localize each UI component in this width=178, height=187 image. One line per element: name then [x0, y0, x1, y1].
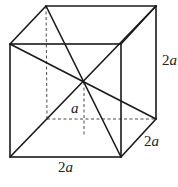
- space-diagonal-3: [10, 6, 156, 157]
- cube-diagram: [0, 0, 178, 187]
- label-half-height: a: [71, 101, 79, 116]
- label-depth: 2a: [144, 134, 159, 149]
- edge-top-left-depth: [10, 6, 46, 44]
- label-width: 2a: [58, 160, 73, 175]
- label-height: 2a: [162, 53, 177, 68]
